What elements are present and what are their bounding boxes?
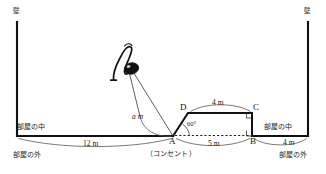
left-wall-label: 壁	[13, 8, 20, 15]
cord-reach-arc	[141, 119, 172, 137]
dimension-label-5m: 5 m	[208, 140, 219, 148]
dimension-label-4m-top: 4 m	[212, 99, 223, 107]
cord-line-right	[134, 73, 174, 137]
diagram-canvas: 壁 壁 部屋の中 部屋の外 部屋の中 部屋の外 A B C D （コンセント） …	[0, 0, 326, 174]
inside-room-left-label: 部屋の中	[17, 124, 45, 131]
dimension-arc-4m-right	[254, 139, 307, 145]
point-label-c: C	[253, 103, 259, 112]
outside-room-right-label: 部屋の外	[279, 152, 307, 159]
trapezoid-obstacle	[173, 113, 252, 136]
outside-room-left-label: 部屋の外	[13, 152, 41, 159]
right-wall-label: 壁	[304, 8, 311, 15]
inside-room-right-label: 部屋の中	[264, 124, 292, 131]
dimension-label-12m: 12 m	[83, 140, 98, 148]
dimension-label-4m-right: 4 m	[283, 139, 294, 147]
geometry-figure	[0, 0, 326, 174]
outlet-note-label: （コンセント）	[146, 151, 196, 158]
cord-length-label: a m	[132, 113, 143, 121]
angle-label-60: 60°	[187, 121, 196, 128]
point-label-b: B	[250, 137, 256, 146]
point-label-d: D	[180, 103, 187, 112]
vacuum-handle-icon	[125, 44, 132, 46]
point-label-a: A	[169, 137, 176, 146]
